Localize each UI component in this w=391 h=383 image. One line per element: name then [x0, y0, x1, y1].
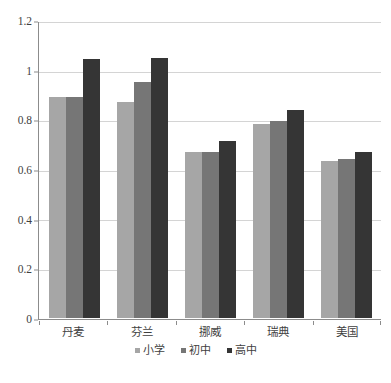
x-tick-mark [313, 321, 314, 325]
bar [117, 102, 134, 318]
y-tick-label: 0.4 [18, 215, 32, 227]
y-tick-label: 0.6 [18, 165, 32, 177]
y-tick-label: 0.8 [18, 116, 32, 128]
bar-groups [40, 22, 381, 318]
bar-group [176, 22, 244, 318]
x-axis-label: 瑞典 [267, 321, 289, 339]
x-axis-category: 瑞典 [244, 321, 312, 343]
bar-group [108, 22, 176, 318]
chart-legend: 小学初中高中 [0, 345, 391, 356]
x-tick-mark [39, 321, 40, 325]
y-tick-label: 1 [26, 66, 32, 78]
bar [202, 152, 219, 318]
legend-swatch-icon [227, 348, 232, 353]
legend-label: 小学 [143, 345, 165, 356]
cropped-caption [0, 374, 391, 383]
x-tick-mark [107, 321, 108, 325]
bar [321, 161, 338, 318]
x-axis-category: 挪威 [176, 321, 244, 343]
bar [134, 82, 151, 318]
x-tick-mark [244, 321, 245, 325]
bar [355, 152, 372, 319]
legend-item[interactable]: 小学 [135, 345, 165, 356]
x-axis-category: 芬兰 [107, 321, 175, 343]
legend-label: 高中 [235, 345, 257, 356]
bar [49, 97, 66, 318]
y-tick-label: 0.2 [18, 265, 32, 277]
legend-swatch-icon [135, 348, 140, 353]
bar [253, 124, 270, 318]
legend-label: 初中 [189, 345, 211, 356]
bar [185, 152, 202, 318]
x-tick-mark [380, 321, 381, 325]
plot-area [38, 22, 381, 320]
x-axis: 丹麦芬兰挪威瑞典美国 [39, 321, 381, 343]
x-tick-mark [176, 321, 177, 325]
legend-item[interactable]: 初中 [181, 345, 211, 356]
bar-chart: 00.20.40.60.811.2 丹麦芬兰挪威瑞典美国 小学初中高中 [0, 0, 391, 383]
x-axis-label: 丹麦 [62, 321, 84, 339]
bar [287, 110, 304, 318]
bar [151, 58, 168, 318]
bar [270, 121, 287, 318]
x-axis-label: 美国 [336, 321, 358, 339]
y-tick-label: 0 [26, 314, 32, 326]
bar [83, 59, 100, 318]
bar-group [40, 22, 108, 318]
x-axis-category: 丹麦 [39, 321, 107, 343]
y-axis: 00.20.40.60.811.2 [0, 22, 38, 320]
legend-swatch-icon [181, 348, 186, 353]
x-axis-category: 美国 [313, 321, 381, 343]
bar-group [245, 22, 313, 318]
bar [66, 97, 83, 318]
x-axis-label: 挪威 [199, 321, 221, 339]
y-tick-label: 1.2 [18, 16, 32, 28]
bar [338, 159, 355, 318]
bar [219, 141, 236, 318]
bar-group [313, 22, 381, 318]
x-axis-label: 芬兰 [131, 321, 153, 339]
legend-item[interactable]: 高中 [227, 345, 257, 356]
